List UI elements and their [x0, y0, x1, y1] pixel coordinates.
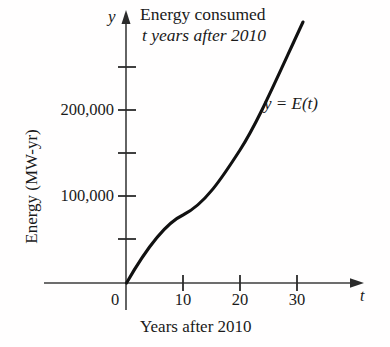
curve-label: y = E(t)	[264, 95, 318, 112]
chart-title-line-1: Energy consumed	[140, 4, 266, 24]
chart-title: Energy consumed t years after 2010	[140, 6, 266, 44]
y-axis-variable-label: y	[108, 8, 116, 25]
x-axis	[44, 278, 364, 288]
curve-label-expression: E(t)	[292, 94, 318, 113]
x-tick-label-origin: 0	[95, 292, 135, 309]
energy-consumed-chart: y t Energy consumed t years after 2010 2…	[0, 0, 390, 347]
y-axis	[122, 10, 131, 310]
chart-title-line-2: t years after 2010	[142, 27, 266, 45]
x-axis-variable-label: t	[360, 288, 364, 304]
energy-curve	[127, 22, 304, 283]
y-axis-ticks	[118, 67, 136, 239]
x-tick-label-30: 30	[277, 292, 317, 309]
x-tick-label-20: 20	[220, 292, 260, 309]
x-tick-label-10: 10	[163, 292, 203, 309]
curve-label-equals: =	[276, 94, 287, 113]
x-axis-title: Years after 2010	[140, 318, 252, 335]
y-axis-arrowhead	[122, 10, 131, 24]
y-axis-title: Energy (MW-yr)	[23, 102, 40, 272]
curve-label-y: y	[264, 94, 272, 113]
